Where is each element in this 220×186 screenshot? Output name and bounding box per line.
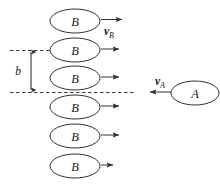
velocity-label-vb: vB	[104, 25, 114, 40]
beam-particle-6: B	[50, 154, 113, 178]
diagram-canvas: b B vB B B B	[0, 0, 220, 186]
particle-label: A	[190, 87, 199, 101]
beam-particle-3: B	[50, 66, 119, 90]
physics-diagram-figure: b B vB B B B	[0, 0, 220, 186]
particle-label: B	[71, 72, 79, 86]
impact-parameter-group: b	[15, 52, 31, 90]
particle-label: B	[71, 130, 79, 144]
projectile-particle-a: A vA	[150, 75, 219, 105]
particle-label: B	[71, 44, 79, 58]
velocity-subscript: B	[109, 31, 114, 40]
velocity-label-va: vA	[155, 75, 165, 90]
particle-label: B	[71, 15, 79, 29]
velocity-subscript: A	[159, 81, 165, 90]
particle-label: B	[71, 101, 79, 115]
particle-label: B	[71, 160, 79, 174]
beam-particle-1: B vB	[50, 9, 122, 40]
impact-parameter-label: b	[15, 65, 21, 77]
beam-particle-4: B	[50, 95, 119, 119]
beam-particle-5: B	[50, 124, 119, 148]
beam-particle-2: B	[50, 38, 119, 62]
